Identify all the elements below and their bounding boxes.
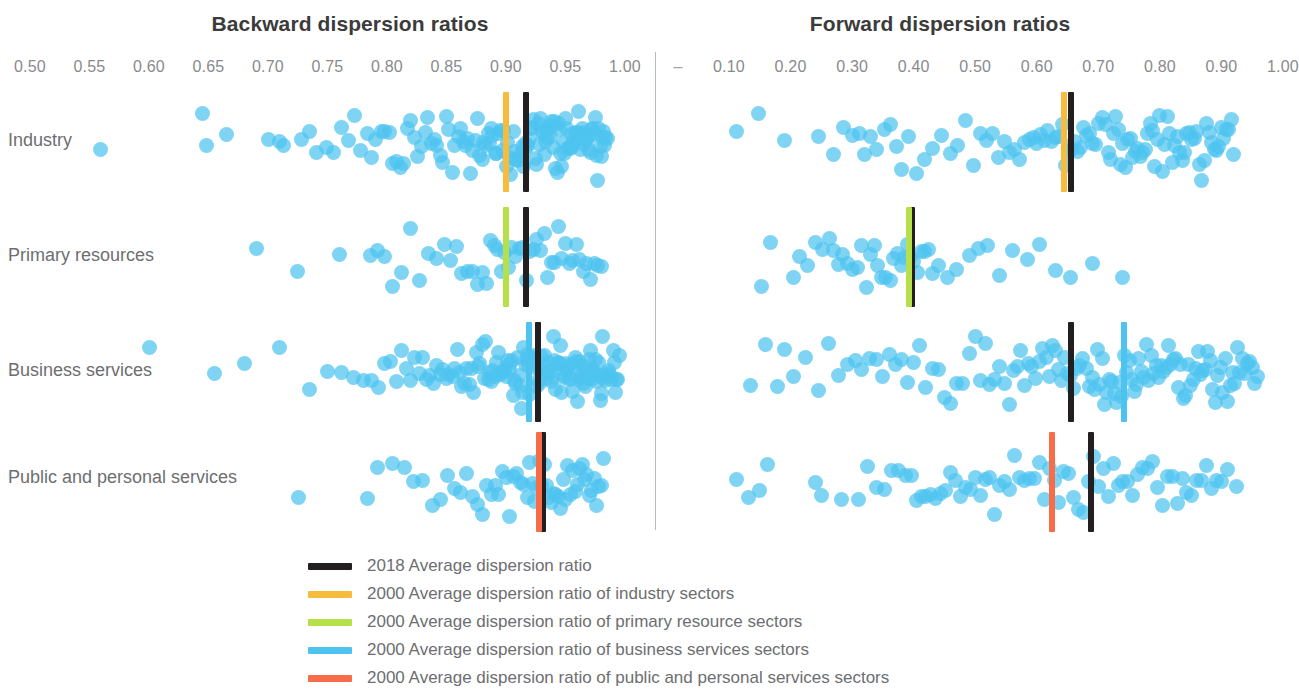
average-rule-avg-2018 — [1068, 92, 1074, 192]
data-point — [918, 380, 933, 395]
axis-tick-label: 0.65 — [193, 58, 225, 76]
data-point — [1199, 458, 1214, 473]
data-point — [962, 346, 977, 361]
axis-tick-label: 0.60 — [1021, 58, 1053, 76]
data-point — [1194, 173, 1209, 188]
data-point — [834, 492, 849, 507]
data-point — [1032, 237, 1047, 252]
legend: 2018 Average dispersion ratio2000 Averag… — [308, 552, 1268, 692]
data-point — [777, 133, 792, 148]
data-point — [1028, 371, 1043, 386]
axis-tick-label: 0.90 — [490, 58, 522, 76]
data-point — [743, 378, 758, 393]
average-rule-avg-2018 — [1088, 432, 1094, 532]
data-point — [850, 260, 865, 275]
data-point — [1218, 351, 1233, 366]
data-point — [904, 468, 919, 483]
data-point — [1115, 270, 1130, 285]
legend-swatch-avg-2018 — [308, 563, 352, 570]
data-point — [906, 355, 921, 370]
data-point — [729, 472, 744, 487]
data-point — [763, 235, 778, 250]
data-point — [883, 273, 898, 288]
data-point — [997, 376, 1012, 391]
data-point — [1085, 256, 1100, 271]
legend-item: 2000 Average dispersion ratio of industr… — [308, 580, 1268, 608]
data-point — [1250, 369, 1265, 384]
axis-dash: – — [673, 58, 682, 76]
data-point — [1145, 454, 1160, 469]
data-point — [889, 139, 904, 154]
data-point — [752, 483, 767, 498]
data-point — [1177, 145, 1192, 160]
axis-tick-label: 0.75 — [312, 58, 344, 76]
data-point — [1061, 466, 1076, 481]
legend-label: 2000 Average dispersion ratio of primary… — [367, 612, 802, 632]
legend-label: 2000 Average dispersion ratio of public … — [367, 668, 889, 688]
strip-row — [0, 92, 1290, 192]
axis-tick-label: 0.20 — [775, 58, 807, 76]
data-point — [949, 262, 964, 277]
data-point — [729, 124, 744, 139]
data-point — [786, 270, 801, 285]
data-point — [1063, 270, 1078, 285]
strip-row — [0, 322, 1290, 422]
data-point — [811, 383, 826, 398]
data-point — [934, 128, 949, 143]
data-point — [958, 113, 973, 128]
legend-item: 2018 Average dispersion ratio — [308, 552, 1268, 580]
axis-tick-label: 0.50 — [14, 58, 46, 76]
data-point — [754, 279, 769, 294]
data-point — [1048, 263, 1063, 278]
axis-tick-label: 0.55 — [74, 58, 106, 76]
data-point — [867, 238, 882, 253]
data-point — [760, 457, 775, 472]
legend-swatch-public-2000 — [308, 675, 352, 682]
data-point — [931, 362, 946, 377]
data-point — [1138, 142, 1153, 157]
data-point — [777, 342, 792, 357]
legend-item: 2000 Average dispersion ratio of primary… — [308, 608, 1268, 636]
backward-panel-title: Backward dispersion ratios — [110, 12, 590, 36]
data-point — [1012, 152, 1027, 167]
axis-tick-label: 0.85 — [431, 58, 463, 76]
data-point — [875, 369, 890, 384]
legend-item: 2000 Average dispersion ratio of busines… — [308, 636, 1268, 664]
data-point — [811, 129, 826, 144]
data-point — [786, 369, 801, 384]
data-point — [955, 376, 970, 391]
data-point — [826, 147, 841, 162]
data-point — [978, 336, 993, 351]
legend-label: 2018 Average dispersion ratio — [367, 556, 592, 576]
axis-tick-label: 0.95 — [550, 58, 582, 76]
legend-label: 2000 Average dispersion ratio of busines… — [367, 640, 809, 660]
axis-tick-label: 0.90 — [1205, 58, 1237, 76]
data-point — [1007, 448, 1022, 463]
average-rule-primary-2000 — [906, 207, 912, 307]
data-point — [1155, 498, 1170, 513]
data-point — [966, 158, 981, 173]
axis-tick-label: 1.00 — [1267, 58, 1299, 76]
axis-tick-label: 0.40 — [898, 58, 930, 76]
data-point — [900, 375, 915, 390]
axis-tick-label: 0.50 — [959, 58, 991, 76]
data-point — [1184, 488, 1199, 503]
data-point — [925, 141, 940, 156]
axis-tick-label: 0.80 — [371, 58, 403, 76]
average-rule-public-2000 — [1049, 432, 1055, 532]
data-point — [921, 242, 936, 257]
data-point — [1125, 488, 1140, 503]
data-point — [877, 482, 892, 497]
data-point — [1220, 394, 1235, 409]
data-point — [987, 507, 1002, 522]
data-point — [1175, 471, 1190, 486]
axis-tick-label: 0.70 — [1082, 58, 1114, 76]
strip-row — [0, 432, 1290, 532]
data-point — [869, 142, 884, 157]
legend-swatch-industry-2000 — [308, 591, 352, 598]
average-rule-industry-2000 — [1061, 92, 1067, 192]
legend-label: 2000 Average dispersion ratio of industr… — [367, 584, 734, 604]
data-point — [1229, 479, 1244, 494]
axis-tick-label: 0.60 — [133, 58, 165, 76]
